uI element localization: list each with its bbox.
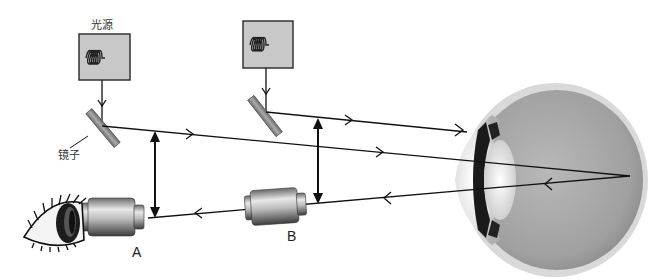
light-source-label: 光源 (91, 16, 113, 32)
mirror-label: 镜子 (58, 146, 80, 162)
optics-diagram: 光源 镜子 A B (0, 0, 662, 280)
device-b (244, 187, 307, 226)
device-a (82, 198, 144, 236)
light-source-1 (79, 34, 130, 80)
device-b-label: B (287, 228, 296, 244)
eyeball-cross-section (455, 83, 648, 277)
double-arrow-a (150, 131, 160, 218)
device-a-label: A (132, 244, 141, 260)
mirror-2 (248, 95, 283, 136)
light-source-2 (243, 21, 293, 68)
observer-eye (24, 194, 86, 252)
mirror-1 (70, 109, 120, 148)
double-arrow-b (313, 118, 323, 204)
